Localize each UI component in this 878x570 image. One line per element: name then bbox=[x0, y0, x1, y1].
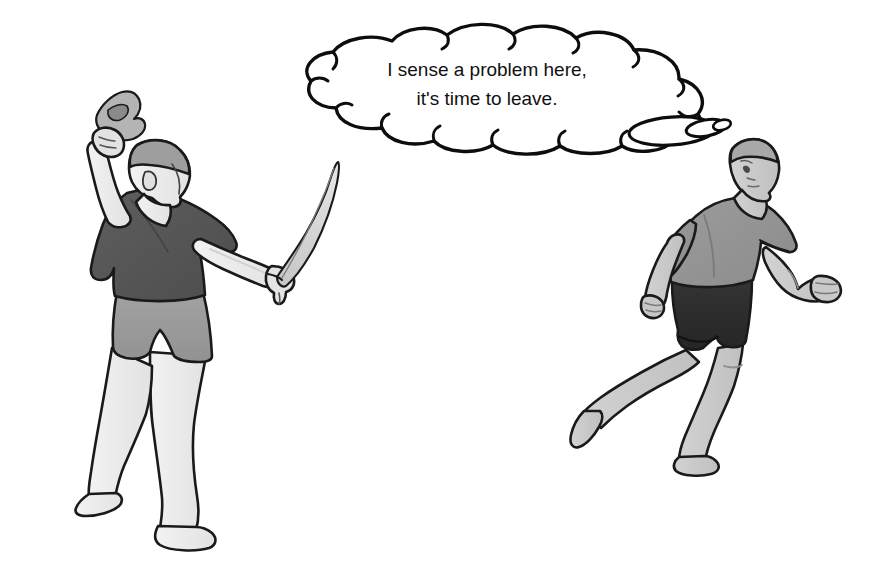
left-figure-ear bbox=[143, 171, 156, 190]
right-figure-back-fist bbox=[641, 295, 664, 318]
right-figure-front-foot bbox=[674, 456, 719, 476]
right-figure-front-fist bbox=[811, 276, 841, 302]
cartoon-illustration: I sense a problem here, it's time to lea… bbox=[0, 0, 878, 570]
thought-bubble-line-1: I sense a problem here, bbox=[387, 59, 587, 80]
thought-bubble-line-2: it's time to leave. bbox=[417, 88, 558, 109]
left-figure-far-foot bbox=[155, 526, 215, 550]
illustration-canvas: I sense a problem here, it's time to lea… bbox=[0, 0, 878, 570]
left-figure-thumb bbox=[279, 293, 280, 304]
